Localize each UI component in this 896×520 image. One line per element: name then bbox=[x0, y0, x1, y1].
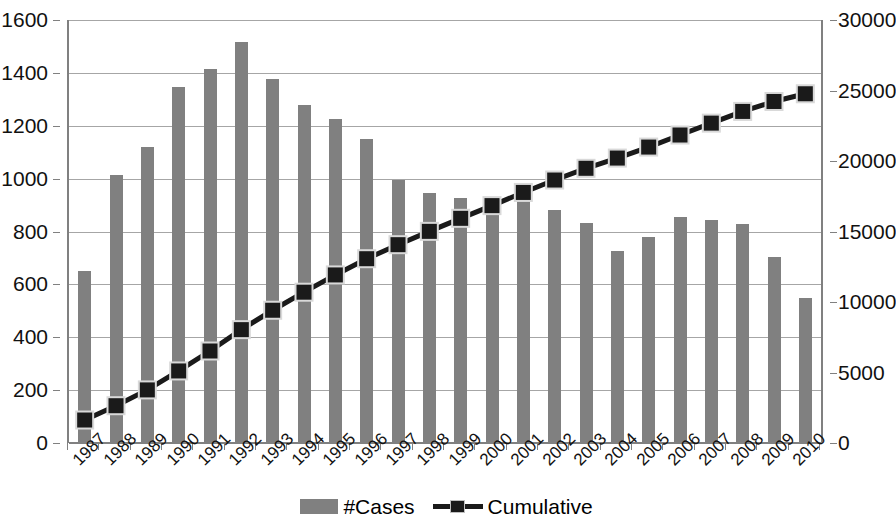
cumulative-marker bbox=[359, 251, 374, 266]
legend-item-cases[interactable]: #Cases bbox=[300, 496, 414, 517]
cumulative-marker bbox=[735, 104, 750, 119]
cumulative-marker bbox=[77, 413, 92, 428]
cumulative-marker bbox=[265, 303, 280, 318]
cumulative-marker bbox=[297, 285, 312, 300]
cumulative-marker bbox=[391, 237, 406, 252]
cumulative-marker bbox=[610, 151, 625, 166]
cumulative-marker bbox=[673, 128, 688, 143]
cumulative-marker bbox=[547, 173, 562, 188]
bar-swatch-icon bbox=[300, 499, 338, 514]
right-axis-tick-mark bbox=[830, 161, 837, 162]
right-axis-tick-mark bbox=[830, 373, 837, 374]
left-axis-tick-label: 200 bbox=[0, 379, 48, 400]
line-marker-swatch-icon bbox=[433, 498, 483, 514]
left-axis-tick-label: 1600 bbox=[0, 9, 48, 30]
cumulative-marker bbox=[516, 185, 531, 200]
line-series-cumulative bbox=[69, 20, 821, 443]
right-axis-tick-mark bbox=[830, 302, 837, 303]
left-axis-tick-mark bbox=[53, 20, 60, 21]
legend-item-cumulative[interactable]: Cumulative bbox=[433, 496, 593, 517]
left-axis-tick-mark bbox=[53, 73, 60, 74]
legend-label-cases: #Cases bbox=[343, 496, 414, 517]
right-axis-tick-label: 10000 bbox=[838, 291, 896, 312]
left-axis-tick-mark bbox=[53, 232, 60, 233]
left-axis-tick-mark bbox=[53, 126, 60, 127]
cumulative-marker bbox=[704, 116, 719, 131]
right-axis-tick-label: 20000 bbox=[838, 150, 896, 171]
cumulative-marker bbox=[798, 86, 813, 101]
left-axis-tick-mark bbox=[53, 337, 60, 338]
right-axis-tick-label: 5000 bbox=[838, 362, 885, 383]
cumulative-marker bbox=[579, 161, 594, 176]
cumulative-marker bbox=[234, 322, 249, 337]
right-axis-tick-mark bbox=[830, 232, 837, 233]
left-axis-tick-mark bbox=[53, 390, 60, 391]
cumulative-marker bbox=[328, 267, 343, 282]
left-axis-tick-label: 1200 bbox=[0, 115, 48, 136]
left-axis-tick-label: 1000 bbox=[0, 168, 48, 189]
right-axis-tick-label: 25000 bbox=[838, 80, 896, 101]
left-axis-tick-label: 1400 bbox=[0, 62, 48, 83]
left-axis-tick-label: 0 bbox=[0, 432, 48, 453]
cumulative-marker bbox=[422, 224, 437, 239]
cumulative-marker bbox=[453, 211, 468, 226]
chart-legend: #Cases Cumulative bbox=[0, 492, 893, 520]
plot-area bbox=[67, 20, 823, 443]
cumulative-marker bbox=[641, 140, 656, 155]
cumulative-marker bbox=[140, 382, 155, 397]
right-axis-tick-label: 0 bbox=[838, 432, 850, 453]
left-axis-tick-mark bbox=[53, 443, 60, 444]
right-axis: 050001000015000200002500030000 bbox=[828, 0, 888, 460]
cumulative-marker bbox=[171, 363, 186, 378]
cumulative-marker bbox=[767, 94, 782, 109]
right-axis-tick-label: 30000 bbox=[838, 9, 896, 30]
right-axis-tick-label: 15000 bbox=[838, 221, 896, 242]
left-axis-tick-mark bbox=[53, 179, 60, 180]
left-axis-tick-label: 400 bbox=[0, 326, 48, 347]
cumulative-line-path bbox=[85, 94, 806, 420]
left-axis-tick-label: 800 bbox=[0, 221, 48, 242]
cumulative-marker bbox=[485, 198, 500, 213]
x-axis-tick bbox=[67, 443, 68, 450]
left-axis: 02004006008001000120014001600 bbox=[0, 0, 60, 460]
right-axis-tick-mark bbox=[830, 91, 837, 92]
legend-label-cumulative: Cumulative bbox=[488, 496, 593, 517]
left-axis-tick-mark bbox=[53, 284, 60, 285]
left-axis-tick-label: 600 bbox=[0, 273, 48, 294]
right-axis-tick-mark bbox=[830, 443, 837, 444]
cumulative-marker bbox=[109, 398, 124, 413]
right-axis-tick-mark bbox=[830, 20, 837, 21]
cumulative-marker bbox=[203, 344, 218, 359]
